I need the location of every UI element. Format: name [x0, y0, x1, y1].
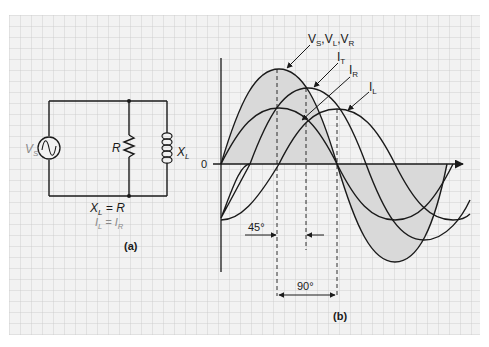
- panel-a-caption: (a): [124, 240, 138, 252]
- resistor-label: R: [112, 141, 121, 155]
- ac-source-icon: [38, 137, 60, 159]
- origin-label: 0: [201, 158, 207, 170]
- panel-b-caption: (b): [333, 310, 347, 322]
- voltage-curve-label: VS,VL,VR: [308, 32, 355, 48]
- equation-xl-equals-r: XL = R: [89, 201, 125, 217]
- junction-dot-bottom: [127, 194, 131, 198]
- junction-dot-top: [127, 99, 131, 103]
- phase-90-label: 90°: [297, 280, 314, 292]
- phase-45-label: 45°: [248, 221, 265, 233]
- figure-canvas: VS R XL XL = R IL = IR (a) 0 VS,VL,VR IT…: [0, 0, 489, 347]
